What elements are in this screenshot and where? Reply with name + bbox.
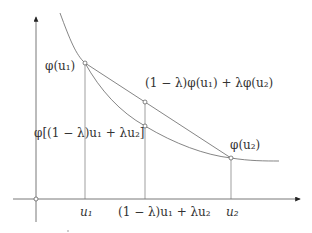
label-chord-value: (1 − λ)φ(u₁) + λφ(u₂) <box>145 77 273 89</box>
point-chord-mid <box>143 100 147 104</box>
label-phi-u2: φ(u₂) <box>230 139 260 151</box>
stray-dot <box>67 230 68 231</box>
label-curve-value: φ[(1 − λ)u₁ + λu₂] <box>34 127 144 139</box>
label-phi-u1: φ(u₁) <box>45 60 75 72</box>
point-phi-u2 <box>229 156 233 160</box>
origin-point <box>34 197 38 201</box>
label-x-u1: u₁ <box>80 206 93 218</box>
point-phi-u1 <box>83 61 87 65</box>
convexity-diagram <box>0 0 312 233</box>
label-x-u2: u₂ <box>226 206 239 218</box>
label-x-mid: (1 − λ)u₁ + λu₂ <box>118 206 211 218</box>
